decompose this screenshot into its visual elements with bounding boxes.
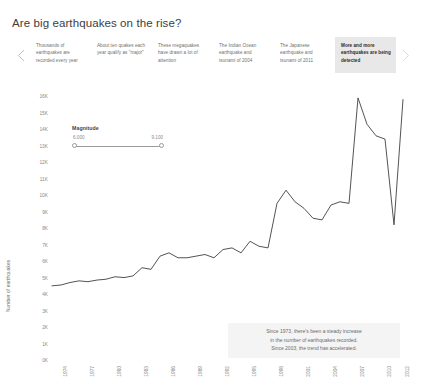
story-prev-button[interactable] <box>12 37 30 73</box>
annotation-line-2: in the number of earthquakes recorded. <box>234 336 394 345</box>
story-tab-3[interactable]: These megaquakes have drawn a lot of att… <box>152 37 213 73</box>
annotation-line-1: Since 1973, there's been a steady increa… <box>234 327 394 336</box>
story-tab-6[interactable]: More and more earthquakes are being dete… <box>335 37 396 73</box>
story-navigator: Thousands of earthquakes are recorded ev… <box>12 37 414 73</box>
earthquake-line-chart: Number of earthquakes 0K1K2K3K4K5K6K7K8K… <box>0 80 425 389</box>
story-tab-1[interactable]: Thousands of earthquakes are recorded ev… <box>30 37 91 73</box>
chevron-right-icon <box>401 49 410 62</box>
story-tab-list: Thousands of earthquakes are recorded ev… <box>30 37 396 73</box>
magnitude-max-value: 9.100 <box>152 135 164 140</box>
chart-annotation: Since 1973, there's been a steady increa… <box>228 323 400 358</box>
story-tab-4[interactable]: The Indian Ocean earthquake and tsunami … <box>213 37 274 73</box>
magnitude-slider-track[interactable] <box>75 146 161 147</box>
magnitude-filter: Magnitude 6.000 9.100 <box>72 125 164 150</box>
magnitude-slider-handle-max[interactable] <box>159 143 164 148</box>
story-tab-2[interactable]: About ten quakes each year qualify as "m… <box>91 37 152 73</box>
magnitude-range-slider[interactable] <box>72 142 164 150</box>
story-tab-5[interactable]: The Japanese earthquake and tsunami of 2… <box>274 37 335 73</box>
chevron-left-icon <box>17 49 26 62</box>
magnitude-filter-label: Magnitude <box>72 125 164 131</box>
magnitude-slider-handle-min[interactable] <box>72 143 77 148</box>
magnitude-min-value: 6.000 <box>73 135 85 140</box>
story-next-button[interactable] <box>396 37 414 73</box>
page-title: Are big earthquakes on the rise? <box>12 17 181 29</box>
annotation-line-3: Since 2003, the trend has accelerated. <box>234 344 394 353</box>
magnitude-filter-values: 6.000 9.100 <box>72 135 164 140</box>
